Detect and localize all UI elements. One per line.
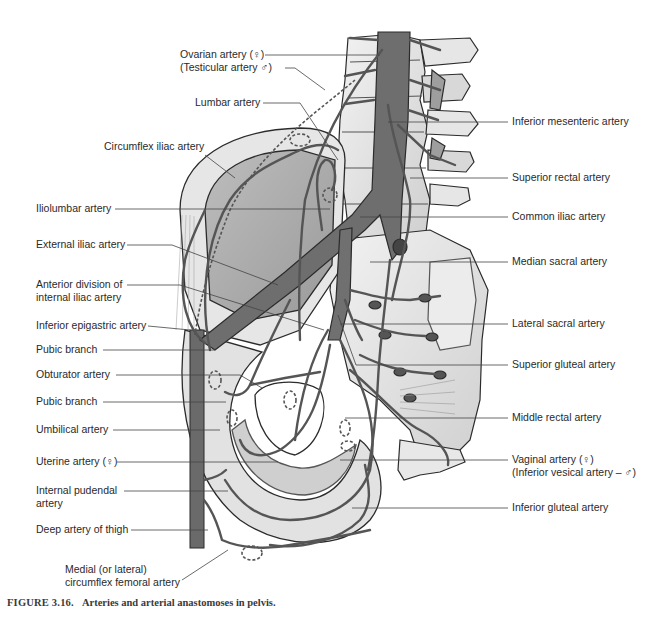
label-lumbar-artery: Lumbar artery	[195, 96, 260, 109]
label-inferior-vesical-artery-line2: (Inferior vesical artery – ♂)	[512, 466, 636, 479]
figure-caption: FIGURE 3.16. Arteries and arterial anast…	[7, 597, 276, 608]
label-superior-gluteal-artery: Superior gluteal artery	[512, 358, 615, 371]
label-superior-rectal-artery: Superior rectal artery	[512, 171, 610, 184]
label-pubic-branch-lower: Pubic branch	[36, 395, 97, 408]
label-umbilical-artery: Umbilical artery	[36, 423, 108, 436]
label-pubic-branch-upper: Pubic branch	[36, 343, 97, 356]
femoral-artery	[190, 330, 204, 548]
label-vaginal-artery: Vaginal artery (♀) (Inferior vesical art…	[512, 453, 636, 479]
label-testicular-artery-line2: (Testicular artery ♂)	[180, 61, 272, 74]
label-external-iliac-artery: External iliac artery	[36, 238, 125, 251]
label-vaginal-artery-line1: Vaginal artery (♀)	[512, 453, 636, 466]
sacrum	[330, 230, 488, 480]
label-common-iliac-artery: Common iliac artery	[512, 210, 605, 223]
label-inferior-epigastric-artery: Inferior epigastric artery	[36, 319, 146, 332]
label-ovarian-artery: Ovarian artery (♀) (Testicular artery ♂)	[180, 48, 272, 74]
label-circumflex-femoral-line1: Medial (or lateral)	[65, 563, 180, 576]
label-circumflex-femoral-artery: Medial (or lateral) circumflex femoral a…	[65, 563, 180, 589]
label-iliolumbar-artery: Iliolumbar artery	[36, 202, 111, 215]
label-circumflex-iliac-artery: Circumflex iliac artery	[104, 140, 204, 153]
pelvic-arteries-figure: Ovarian artery (♀) (Testicular artery ♂)…	[0, 0, 666, 629]
figure-number: FIGURE 3.16.	[7, 597, 74, 608]
label-internal-pudendal-artery: Internal pudendal artery	[36, 484, 117, 510]
figure-caption-text: Arteries and arterial anastomoses in pel…	[82, 597, 276, 608]
label-anterior-division-internal-iliac: Anterior division of internal iliac arte…	[36, 278, 122, 304]
label-middle-rectal-artery: Middle rectal artery	[512, 411, 601, 424]
label-inferior-gluteal-artery: Inferior gluteal artery	[512, 501, 608, 514]
label-anterior-division-line2: internal iliac artery	[36, 291, 122, 304]
label-median-sacral-artery: Median sacral artery	[512, 255, 607, 268]
label-internal-pudendal-line1: Internal pudendal	[36, 484, 117, 497]
label-ovarian-artery-line1: Ovarian artery (♀)	[180, 48, 272, 61]
label-circumflex-femoral-line2: circumflex femoral artery	[65, 576, 180, 589]
label-internal-pudendal-line2: artery	[36, 497, 117, 510]
label-obturator-artery: Obturator artery	[36, 368, 110, 381]
label-inferior-mesenteric-artery: Inferior mesenteric artery	[512, 115, 629, 128]
label-deep-artery-of-thigh: Deep artery of thigh	[36, 523, 128, 536]
label-lateral-sacral-artery: Lateral sacral artery	[512, 317, 605, 330]
label-uterine-artery: Uterine artery (♀)	[36, 455, 117, 468]
label-anterior-division-line1: Anterior division of	[36, 278, 122, 291]
